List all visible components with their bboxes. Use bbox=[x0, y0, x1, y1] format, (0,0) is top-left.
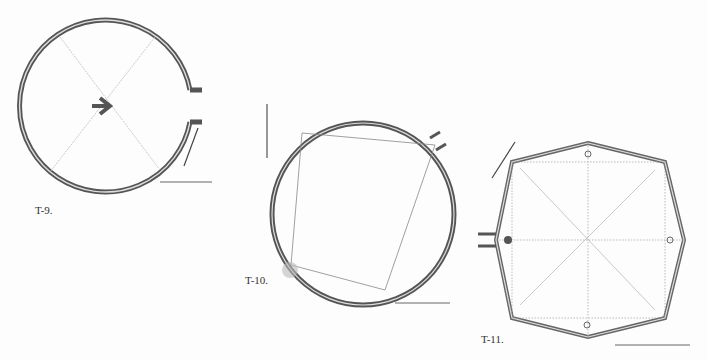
archaeological-plans bbox=[0, 0, 707, 360]
document-page: T-9. T-10. T-11. bbox=[0, 0, 707, 360]
figure-label-t10: T-10. bbox=[245, 274, 268, 286]
figure-label-t9: T-9. bbox=[35, 204, 53, 216]
figure-label-t11: T-11. bbox=[481, 333, 504, 345]
figure-t10-plan bbox=[267, 104, 454, 305]
figure-t9-plan bbox=[20, 20, 212, 192]
figure-t11-plan bbox=[478, 142, 690, 345]
